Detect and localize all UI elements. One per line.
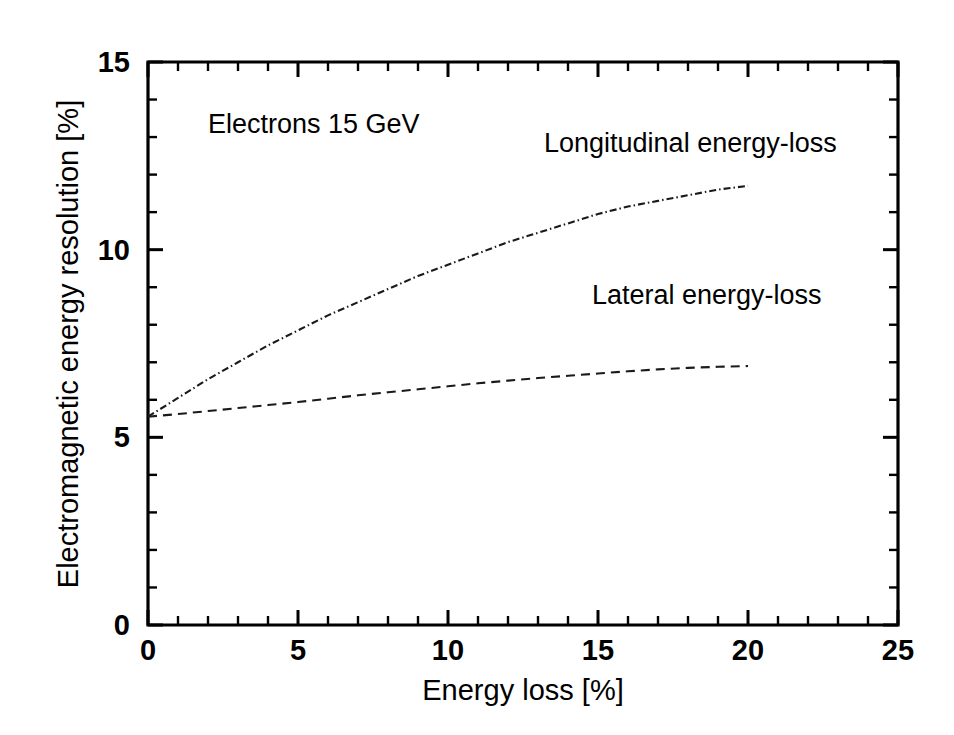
y-tick-label: 10	[98, 234, 130, 266]
annotation-electrons-energy: Electrons 15 GeV	[208, 109, 420, 139]
x-tick-label: 10	[432, 634, 464, 666]
y-tick-label: 5	[114, 421, 130, 453]
energy-resolution-line-chart: 0510152025 051015 Electrons 15 GeVLongit…	[0, 0, 954, 735]
y-tick-label: 0	[114, 609, 130, 641]
annotation-longitudinal-energy-loss: Longitudinal energy-loss	[544, 128, 837, 158]
x-tick-label: 5	[290, 634, 306, 666]
x-tick-label: 20	[732, 634, 764, 666]
y-axis-title: Electromagnetic energy resolution [%]	[52, 100, 84, 588]
y-tick-label: 15	[98, 46, 130, 78]
x-tick-label: 0	[140, 634, 156, 666]
chart-figure: 0510152025 051015 Electrons 15 GeVLongit…	[0, 0, 954, 735]
x-axis-title: Energy loss [%]	[422, 674, 623, 706]
annotation-lateral-energy-loss: Lateral energy-loss	[592, 280, 822, 310]
x-tick-label: 15	[582, 634, 614, 666]
x-tick-label: 25	[882, 634, 914, 666]
